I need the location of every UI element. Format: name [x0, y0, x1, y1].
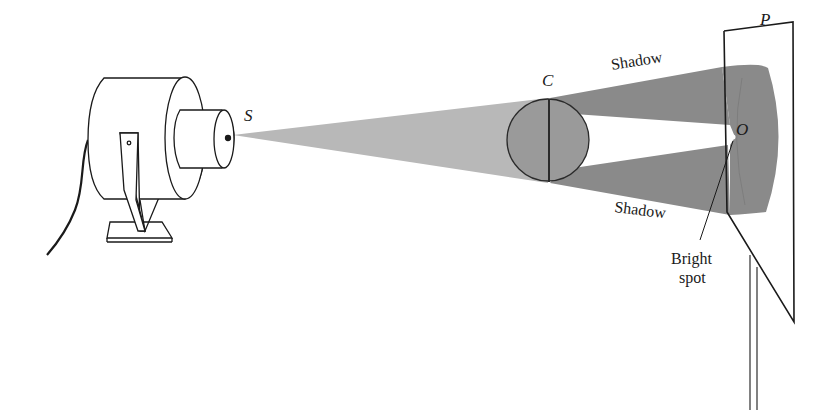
center-label: O	[736, 120, 748, 139]
screen-label: P	[759, 10, 770, 29]
shadow-top-label: Shadow	[610, 48, 664, 73]
bright-spot-label-line1: Bright	[671, 250, 712, 268]
diagram-canvas: S C P O Shadow Shadow Bright spot	[0, 0, 834, 416]
opaque-disk	[507, 99, 589, 182]
lamp	[47, 77, 234, 255]
disk-label: C	[542, 71, 554, 90]
source-label: S	[244, 106, 253, 125]
light-cone	[233, 98, 548, 183]
bright-spot-label-line2: spot	[679, 269, 706, 287]
